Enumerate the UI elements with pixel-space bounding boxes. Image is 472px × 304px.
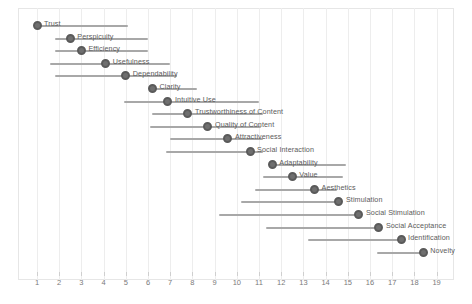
x-tick-label-8: 8 (190, 278, 194, 287)
x-tick-label-3: 3 (79, 278, 83, 287)
x-tick-mark-17 (392, 272, 393, 276)
x-tick-label-2: 2 (57, 278, 61, 287)
mean-rank-marker (246, 147, 255, 156)
confidence-interval-line (377, 252, 424, 254)
series-label: Value (299, 170, 317, 179)
mean-rank-marker (163, 97, 172, 106)
x-tick-label-10: 10 (233, 278, 241, 287)
mean-rank-marker (148, 84, 157, 93)
series-label: Aesthetics (322, 183, 356, 192)
mean-rank-marker (288, 172, 297, 181)
mean-rank-marker (419, 248, 428, 257)
series-label: Clarity (159, 82, 180, 91)
confidence-interval-line (50, 63, 170, 65)
mean-rank-marker (374, 223, 383, 232)
series-label: Efficiency (88, 44, 120, 53)
mean-rank-marker (203, 122, 212, 131)
x-tick-mark-4 (104, 272, 105, 276)
data-row: Perspicuity (18, 33, 454, 45)
series-label: Intuitive Use (175, 95, 216, 104)
data-row: Quality of Content (18, 121, 454, 133)
x-tick-label-6: 6 (146, 278, 150, 287)
x-tick-label-14: 14 (321, 278, 329, 287)
x-tick-label-4: 4 (102, 278, 106, 287)
confidence-interval-line (241, 201, 339, 203)
x-tick-mark-5 (126, 272, 127, 276)
data-row: Attractiveness (18, 133, 454, 145)
x-tick-mark-7 (170, 272, 171, 276)
x-tick-mark-8 (192, 272, 193, 276)
data-row: Trust (18, 20, 454, 32)
data-row: Social Stimulation (18, 209, 454, 221)
data-row: Dependability (18, 70, 454, 82)
x-tick-label-11: 11 (255, 278, 263, 287)
x-tick-label-13: 13 (299, 278, 307, 287)
series-label: Dependability (133, 69, 178, 78)
mean-rank-marker (33, 21, 42, 30)
series-label: Social Stimulation (366, 208, 425, 217)
series-label: Quality of Content (215, 120, 274, 129)
x-tick-mark-10 (237, 272, 238, 276)
series-label: Usefulness (113, 57, 150, 66)
mean-rank-marker (101, 59, 110, 68)
x-tick-label-1: 1 (35, 278, 39, 287)
data-row: Aesthetics (18, 184, 454, 196)
plot-area: TrustPerspicuityEfficiencyUsefulnessDepe… (18, 8, 454, 280)
x-tick-mark-11 (259, 272, 260, 276)
series-label: Identification (408, 233, 450, 242)
mean-rank-marker (183, 109, 192, 118)
mean-rank-marker (334, 197, 343, 206)
x-tick-label-15: 15 (344, 278, 352, 287)
x-tick-label-9: 9 (213, 278, 217, 287)
x-tick-mark-15 (348, 272, 349, 276)
x-tick-mark-1 (37, 272, 38, 276)
series-label: Trust (44, 19, 61, 28)
data-row: Efficiency (18, 45, 454, 57)
series-label: Adaptability (279, 158, 317, 167)
x-tick-label-12: 12 (277, 278, 285, 287)
confidence-interval-line (308, 239, 401, 241)
series-label: Attractiveness (235, 132, 282, 141)
x-tick-label-5: 5 (124, 278, 128, 287)
mean-rank-marker (397, 235, 406, 244)
x-tick-mark-6 (148, 272, 149, 276)
data-row: Novelty (18, 247, 454, 259)
data-row: Value (18, 171, 454, 183)
data-row: Intuitive Use (18, 96, 454, 108)
x-tick-mark-12 (281, 272, 282, 276)
data-row: Stimulation (18, 196, 454, 208)
mean-rank-marker (121, 71, 130, 80)
x-tick-label-7: 7 (168, 278, 172, 287)
mean-rank-marker (310, 185, 319, 194)
mean-rank-marker (77, 46, 86, 55)
x-tick-label-19: 19 (432, 278, 440, 287)
series-label: Novelty (430, 246, 455, 255)
x-tick-mark-9 (215, 272, 216, 276)
data-row: Clarity (18, 83, 454, 95)
x-tick-label-16: 16 (366, 278, 374, 287)
data-row: Adaptability (18, 159, 454, 171)
mean-rank-marker (354, 210, 363, 219)
series-label: Social Acceptance (386, 221, 446, 230)
x-tick-mark-14 (326, 272, 327, 276)
data-row: Identification (18, 234, 454, 246)
series-label: Stimulation (346, 195, 383, 204)
x-tick-mark-2 (59, 272, 60, 276)
mean-rank-marker (66, 34, 75, 43)
series-label: Trustworthiness of Content (195, 107, 283, 116)
mean-rank-marker (223, 134, 232, 143)
x-tick-mark-3 (81, 272, 82, 276)
x-tick-mark-19 (437, 272, 438, 276)
data-row: Social Acceptance (18, 222, 454, 234)
confidence-interval-line (266, 227, 379, 229)
x-axis: 12345678910111213141516171819 (18, 272, 454, 278)
data-row: Social Interaction (18, 146, 454, 158)
confidence-interval-line (219, 214, 359, 216)
series-label: Social Interaction (257, 145, 314, 154)
x-tick-mark-16 (370, 272, 371, 276)
x-tick-label-17: 17 (388, 278, 396, 287)
ranking-confidence-interval-chart: TrustPerspicuityEfficiencyUsefulnessDepe… (0, 0, 472, 304)
data-row: Usefulness (18, 58, 454, 70)
x-tick-label-18: 18 (410, 278, 418, 287)
series-label: Perspicuity (77, 32, 113, 41)
